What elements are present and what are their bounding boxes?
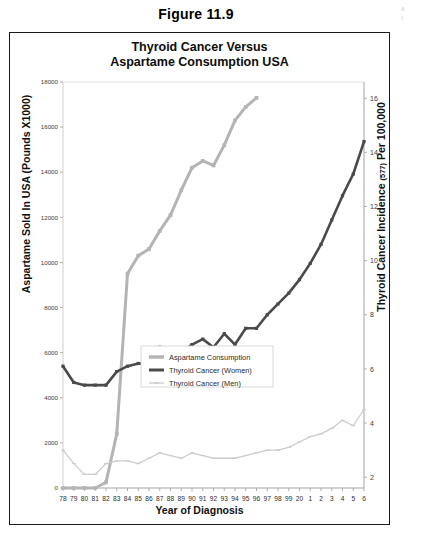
margin-note-line-1: a [401,4,423,13]
svg-text:6: 6 [370,366,374,373]
svg-text:4: 4 [341,495,345,502]
svg-text:2000: 2000 [44,439,58,446]
svg-text:87: 87 [156,495,164,502]
chart-plot: 0200040006000800010000120001400016000180… [10,33,388,523]
svg-text:78: 78 [59,495,67,502]
svg-text:6: 6 [362,495,366,502]
svg-text:Thyroid Cancer (Women): Thyroid Cancer (Women) [169,366,252,375]
svg-text:2: 2 [370,474,374,481]
svg-text:98: 98 [274,495,282,502]
svg-text:84: 84 [124,495,132,502]
svg-text:82: 82 [102,495,110,502]
svg-text:16: 16 [370,95,378,102]
svg-text:0: 0 [55,484,59,491]
svg-text:4: 4 [370,420,374,427]
svg-text:4000: 4000 [44,394,58,401]
svg-text:99: 99 [285,495,293,502]
svg-text:83: 83 [113,495,121,502]
svg-text:1: 1 [308,495,312,502]
svg-text:8000: 8000 [44,304,58,311]
svg-text:18000: 18000 [41,78,59,85]
svg-text:80: 80 [81,495,89,502]
svg-text:12: 12 [370,203,378,210]
svg-text:Thyroid Cancer (Men): Thyroid Cancer (Men) [169,379,241,388]
svg-text:91: 91 [199,495,207,502]
svg-text:10: 10 [370,257,378,264]
svg-text:14000: 14000 [41,168,59,175]
svg-text:8: 8 [370,311,374,318]
plot-axes-group: 0200040006000800010000120001400016000180… [41,78,378,502]
svg-text:5: 5 [351,495,355,502]
svg-text:93: 93 [221,495,229,502]
svg-text:97: 97 [264,495,272,502]
data-series-group [61,96,366,490]
svg-text:6000: 6000 [44,349,58,356]
svg-text:79: 79 [70,495,78,502]
svg-text:2: 2 [319,495,323,502]
svg-text:81: 81 [92,495,100,502]
svg-text:12000: 12000 [41,214,59,221]
svg-text:3: 3 [330,495,334,502]
svg-text:20: 20 [296,495,304,502]
page-margin-note: a i [401,4,423,22]
svg-text:16000: 16000 [41,123,59,130]
chart-legend: Aspartame ConsumptionThyroid Cancer (Wom… [141,346,273,388]
margin-note-line-2: i [401,13,423,22]
svg-text:Aspartame Consumption: Aspartame Consumption [169,353,250,362]
figure-page: Figure 11.9 a i Thyroid Cancer Versus As… [0,0,424,533]
svg-text:94: 94 [231,495,239,502]
svg-text:89: 89 [178,495,186,502]
svg-text:96: 96 [253,495,261,502]
svg-text:92: 92 [210,495,218,502]
chart-frame: Thyroid Cancer Versus Aspartame Consumpt… [9,32,390,525]
svg-text:88: 88 [167,495,175,502]
svg-text:90: 90 [188,495,196,502]
svg-text:14: 14 [370,149,378,156]
svg-text:95: 95 [242,495,250,502]
svg-text:85: 85 [135,495,143,502]
svg-text:10000: 10000 [41,259,59,266]
figure-caption: Figure 11.9 [0,6,392,22]
svg-text:86: 86 [145,495,153,502]
